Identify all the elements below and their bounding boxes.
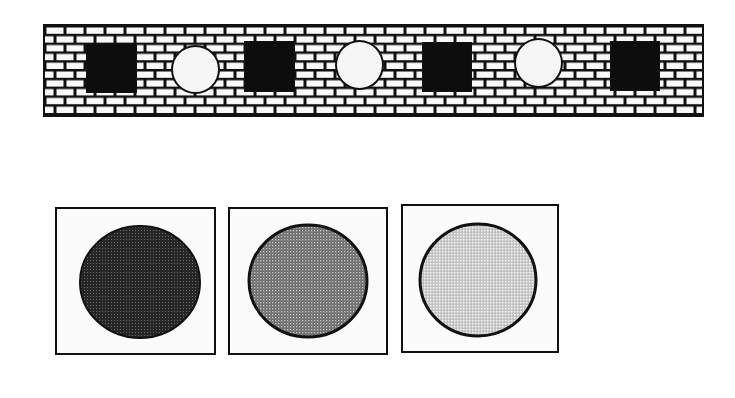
light-circle [403,206,557,351]
swatch-box-dark [55,207,216,355]
circle-opening-2 [335,40,384,90]
circle-opening-3 [514,38,563,88]
square-opening-1 [87,44,136,92]
swatch-box-medium [228,207,388,355]
brick-wall [43,24,704,117]
swatch-box-light [401,204,559,353]
square-opening-3 [423,43,471,91]
medium-circle [230,209,386,353]
dark-circle [57,209,214,353]
square-opening-4 [611,42,659,90]
circle-opening-1 [171,45,220,94]
square-opening-2 [245,42,294,91]
